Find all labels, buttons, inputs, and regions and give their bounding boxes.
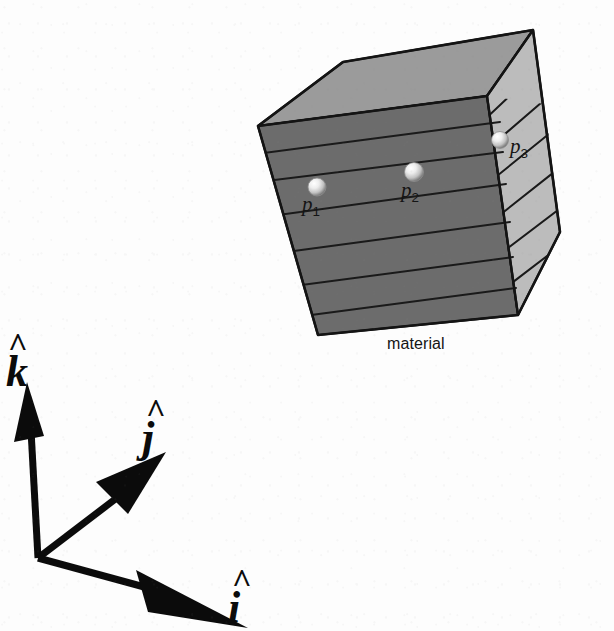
point-label-p2-sub: 2 bbox=[412, 190, 419, 205]
axis-arrow-i[interactable] bbox=[38, 558, 248, 628]
point-label-p1-base: p bbox=[302, 192, 313, 216]
axis-label-j: j bbox=[142, 418, 154, 458]
figure-canvas bbox=[0, 0, 614, 631]
material-caption: material bbox=[387, 335, 445, 353]
point-label-p3-base: p bbox=[510, 134, 521, 158]
point-label-p1-sub: 1 bbox=[313, 204, 320, 219]
point-label-p3-sub: 3 bbox=[521, 146, 528, 161]
coordinate-axes bbox=[14, 382, 248, 628]
point-label-p2: p2 bbox=[401, 178, 419, 205]
point-label-p1: p1 bbox=[302, 192, 320, 219]
axis-arrow-j[interactable] bbox=[38, 452, 166, 558]
point-label-p2-base: p bbox=[401, 178, 412, 202]
point-sphere-p3[interactable] bbox=[492, 132, 509, 149]
axis-label-i: i bbox=[228, 588, 240, 628]
figure-root: p1 p2 p3 material ^ k ^ j ^ i bbox=[0, 0, 614, 631]
block-front-face bbox=[258, 96, 518, 335]
axis-arrow-k[interactable] bbox=[14, 382, 44, 558]
point-label-p3: p3 bbox=[510, 134, 528, 161]
axis-label-k: k bbox=[6, 352, 28, 392]
